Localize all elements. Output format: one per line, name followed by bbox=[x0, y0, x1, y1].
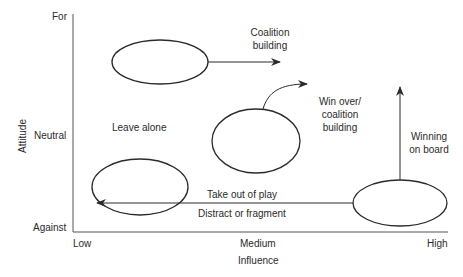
label-win-over-line2: coalition bbox=[312, 108, 368, 121]
label-winning-on-board: Winning on board bbox=[404, 130, 454, 156]
ellipse-leave-alone bbox=[92, 159, 188, 215]
y-tick-neutral: Neutral bbox=[34, 129, 66, 142]
ellipse-win-over bbox=[212, 109, 300, 173]
label-coalition-building: Coalition building bbox=[240, 26, 300, 52]
label-win-over-line1: Win over/ bbox=[312, 95, 368, 108]
label-leave-alone: Leave alone bbox=[112, 121, 167, 134]
label-winning-line2: on board bbox=[404, 143, 454, 156]
ellipse-high-influence bbox=[353, 180, 447, 226]
label-win-over: Win over/ coalition building bbox=[312, 95, 368, 134]
y-axis-title: Attitude bbox=[17, 119, 28, 153]
stakeholder-diagram: Attitude bbox=[0, 0, 463, 277]
y-tick-against: Against bbox=[33, 221, 66, 234]
arrow-win-over-curve bbox=[263, 84, 307, 109]
label-take-out-of-play: Take out of play bbox=[207, 188, 277, 201]
label-coalition-line2: building bbox=[240, 39, 300, 52]
y-tick-for: For bbox=[52, 10, 67, 23]
ellipse-coalition bbox=[112, 40, 208, 84]
x-axis-title: Influence bbox=[238, 254, 279, 267]
x-tick-medium: Medium bbox=[240, 237, 276, 250]
x-tick-high: High bbox=[427, 237, 448, 250]
x-tick-low: Low bbox=[73, 237, 91, 250]
label-distract-or-fragment: Distract or fragment bbox=[198, 207, 286, 220]
label-win-over-line3: building bbox=[312, 121, 368, 134]
label-winning-line1: Winning bbox=[404, 130, 454, 143]
label-coalition-line1: Coalition bbox=[240, 26, 300, 39]
